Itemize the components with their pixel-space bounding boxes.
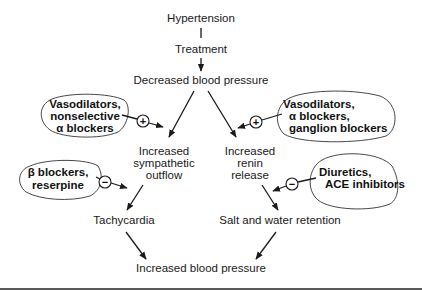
arrow-to-salt-water-retention (262, 185, 278, 210)
node-treatment: Treatment (175, 43, 228, 55)
arrow-tachycardia-to-increased-bp (126, 232, 146, 259)
drug-label-line: α blockers (56, 122, 114, 134)
connector-line (262, 114, 282, 120)
connector-line (298, 178, 316, 182)
renin-line-3: release (231, 169, 269, 181)
renin-line-1: Increased (225, 145, 276, 157)
effect-arrow (111, 183, 127, 188)
drug-label-line: β blockers, (28, 166, 89, 178)
node-decreased-blood-pressure: Decreased blood pressure (134, 74, 269, 86)
drug-label-line: α blockers, (289, 110, 350, 122)
drug-group-vasodilators-nonselective: Vasodilators, nonselective α blockers + (41, 94, 163, 137)
effect-arrow (238, 124, 250, 128)
renin-line-2: renin (237, 157, 263, 169)
drug-label-line: ganglion blockers (289, 122, 387, 134)
node-hypertension: Hypertension (167, 12, 235, 24)
arrow-to-sympathetic-outflow (169, 91, 194, 137)
drug-label-line: reserpine (32, 179, 84, 191)
node-increased-sympathetic-outflow: Increased sympathetic outflow (133, 145, 195, 181)
node-salt-water-retention: Salt and water retention (219, 214, 340, 226)
node-tachycardia: Tachycardia (93, 214, 155, 226)
drug-label-line: ACE inhibitors (325, 178, 405, 190)
hypertension-compensation-diagram: Hypertension Treatment Decreased blood p… (0, 0, 422, 291)
sympathetic-line-2: sympathetic (133, 157, 195, 169)
arrow-salt-water-to-increased-bp (256, 232, 276, 259)
arrow-to-renin-release (208, 91, 236, 137)
drug-label-line: nonselective (50, 110, 120, 122)
drug-group-beta-blockers: β blockers, reserpine − (20, 160, 127, 199)
drug-label-line: Vasodilators, (49, 98, 121, 110)
node-increased-blood-pressure: Increased blood pressure (136, 262, 266, 274)
effect-arrow (273, 186, 286, 191)
sympathetic-line-1: Increased (139, 145, 190, 157)
effect-arrow (149, 123, 163, 127)
drug-label-line: Vasodilators, (283, 98, 355, 110)
effect-sign: − (289, 178, 295, 190)
effect-sign: + (253, 116, 259, 128)
node-increased-renin-release: Increased renin release (225, 145, 276, 181)
effect-sign: + (140, 115, 146, 127)
drug-label-line: Diuretics, (319, 166, 371, 178)
sympathetic-line-3: outflow (146, 169, 183, 181)
connector-line (122, 115, 137, 119)
drug-group-diuretics: Diuretics, ACE inhibitors − (273, 154, 405, 209)
effect-sign: − (102, 176, 108, 188)
arrow-to-tachycardia (127, 185, 143, 210)
drug-group-vasodilators-ganglion: Vasodilators, α blockers, ganglion block… (238, 91, 395, 142)
